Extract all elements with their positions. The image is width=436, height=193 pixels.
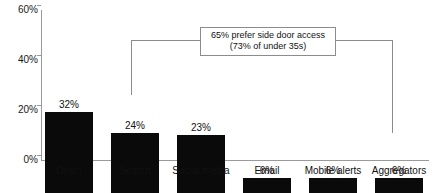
y-tick-mark-60 bbox=[37, 5, 41, 6]
annotation-line-2: (73% of under 35s) bbox=[204, 41, 332, 52]
y-tick-mark-0 bbox=[37, 155, 41, 156]
bar-rect-aggregators bbox=[375, 178, 423, 193]
annotation-leader-right-vertical bbox=[392, 40, 393, 133]
annotation-leader-left-horizontal bbox=[131, 40, 201, 41]
annotation-leader-right-horizontal bbox=[335, 40, 393, 41]
annotation-line-1: 65% prefer side door access bbox=[204, 30, 332, 41]
y-tick-label-40: 40% bbox=[6, 55, 38, 65]
bar-value-social-media: 23% bbox=[191, 122, 211, 133]
y-tick-40: 40% bbox=[0, 55, 38, 65]
bar-rect-mobile-alerts bbox=[309, 178, 357, 193]
category-label-aggregators: Aggregators bbox=[359, 165, 436, 177]
bar-rect-direct bbox=[45, 112, 93, 193]
y-tick-label-0: 0% bbox=[6, 155, 38, 165]
x-axis-line bbox=[41, 160, 429, 161]
bar-rect-email bbox=[243, 178, 291, 193]
y-tick-60: 60% bbox=[0, 5, 38, 15]
y-tick-label-60: 60% bbox=[6, 5, 38, 15]
annotation-leader-left-vertical bbox=[131, 40, 132, 95]
bar-value-direct: 32% bbox=[59, 99, 79, 110]
bar-value-search: 24% bbox=[125, 120, 145, 131]
bar-rect-social-media bbox=[177, 135, 225, 193]
y-axis-line bbox=[41, 10, 42, 161]
y-tick-0: 0% bbox=[0, 155, 38, 165]
y-tick-20: 20% bbox=[0, 105, 38, 115]
annotation-callout: 65% prefer side door access (73% of unde… bbox=[200, 27, 336, 56]
y-tick-label-20: 20% bbox=[6, 105, 38, 115]
bar-rect-search bbox=[111, 133, 159, 193]
y-tick-mark-20 bbox=[37, 105, 41, 106]
y-tick-mark-40 bbox=[37, 55, 41, 56]
bar-chart: 60% 40% 20% 0% 32% 24% 23% 6% 6% 6% Dire bbox=[0, 0, 436, 193]
